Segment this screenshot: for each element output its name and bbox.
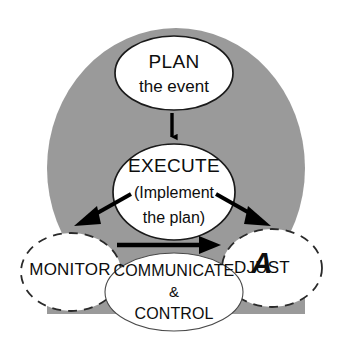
execute-node-label-line-2: (Implement — [134, 184, 215, 201]
plan-node-label-line-2: the event — [139, 77, 209, 96]
monitor-node-label: MONITOR — [29, 260, 110, 279]
execute-node-label-line-3: the plan) — [143, 209, 205, 226]
event-management-cycle-diagram: PLAN the event EXECUTE (Implement the pl… — [0, 0, 340, 353]
execute-node[interactable]: EXECUTE (Implement the plan) — [113, 144, 235, 240]
adjust-node-label-remainder: DJUST — [234, 258, 290, 277]
communicate-and-control-node[interactable]: COMMUNICATE & CONTROL — [105, 253, 243, 331]
communicate-and-control-label-line-2: & — [169, 283, 179, 300]
diagram-canvas: PLAN the event EXECUTE (Implement the pl… — [0, 0, 340, 353]
communicate-and-control-label-line-1: COMMUNICATE — [114, 262, 235, 279]
plan-node-label-line-1: PLAN — [148, 51, 199, 72]
plan-node[interactable]: PLAN the event — [115, 36, 233, 110]
communicate-and-control-label-line-3: CONTROL — [135, 305, 214, 322]
plan-node-shape — [115, 36, 233, 110]
execute-node-label-line-1: EXECUTE — [128, 155, 220, 176]
